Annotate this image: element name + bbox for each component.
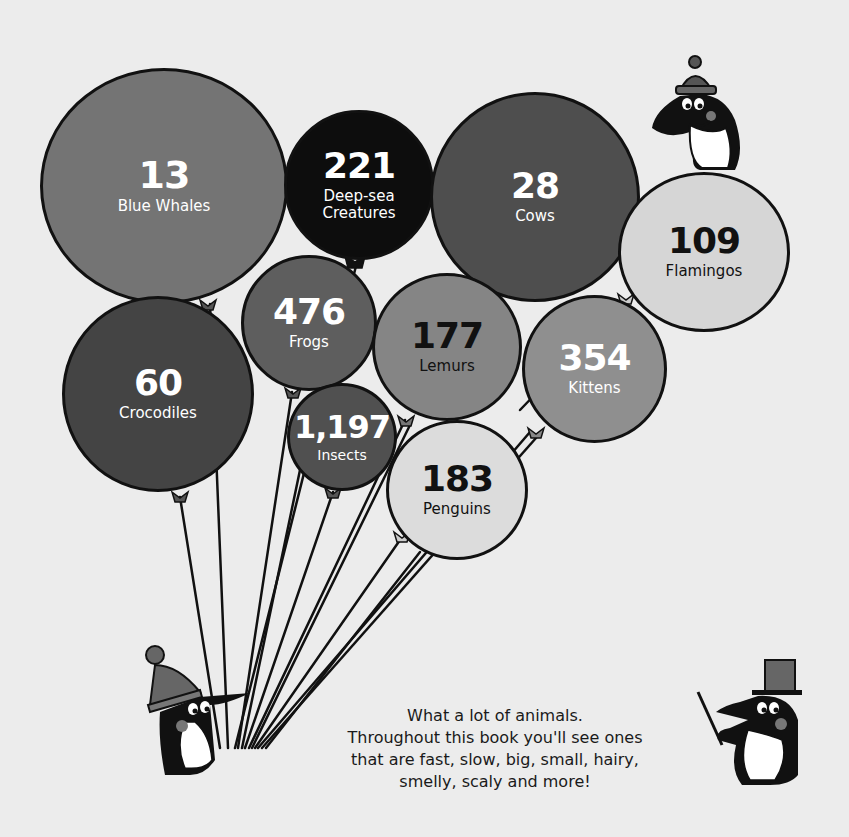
caption-line-4: smelly, scaly and more! bbox=[330, 771, 660, 793]
caption-line-3: that are fast, slow, big, small, hairy, bbox=[330, 749, 660, 771]
caption-text: What a lot of animals. Throughout this b… bbox=[330, 705, 660, 793]
balloon-illustration: 13Blue Whales221Deep-seaCreatures28Cows1… bbox=[0, 0, 849, 837]
caption-line-1: What a lot of animals. bbox=[330, 705, 660, 727]
caption-line-2: Throughout this book you'll see ones bbox=[330, 727, 660, 749]
